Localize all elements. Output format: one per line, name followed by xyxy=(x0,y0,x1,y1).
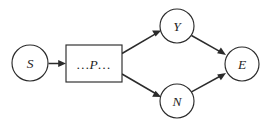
diagram-svg: S …P… Y N E xyxy=(0,0,274,127)
node-p[interactable]: …P… xyxy=(66,45,122,82)
node-y[interactable]: Y xyxy=(160,9,194,43)
node-s-label: S xyxy=(27,56,34,71)
node-s[interactable]: S xyxy=(12,45,48,81)
edge-p-to-n-line xyxy=(122,74,156,94)
edge-y-to-e xyxy=(192,36,227,55)
edge-p-to-n xyxy=(122,74,161,97)
node-e[interactable]: E xyxy=(225,47,259,81)
node-e-label: E xyxy=(237,57,247,72)
edge-s-to-p-arrowhead xyxy=(58,60,66,67)
node-n-label: N xyxy=(171,94,182,109)
edge-s-to-p xyxy=(49,60,67,67)
edge-p-to-y xyxy=(122,30,161,53)
diagram-canvas: S …P… Y N E xyxy=(0,0,274,127)
edge-y-to-e-line xyxy=(192,36,221,52)
edge-n-to-e-line xyxy=(192,76,221,92)
node-p-label: …P… xyxy=(77,57,111,72)
edge-n-to-e xyxy=(192,73,227,92)
edge-p-to-y-line xyxy=(122,34,156,54)
node-n[interactable]: N xyxy=(160,84,194,118)
